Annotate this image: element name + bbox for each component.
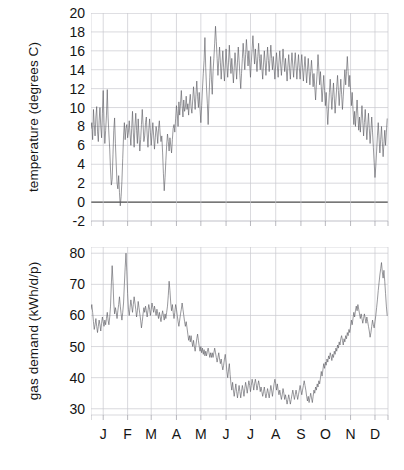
data-series-line — [91, 253, 387, 404]
y-tick-label: 50 — [55, 340, 85, 354]
x-tick-label-month: D — [365, 427, 385, 441]
x-tick-label-month: J — [216, 427, 236, 441]
y-tick-label: 14 — [55, 63, 85, 77]
y-tick-label: 30 — [55, 402, 85, 416]
x-tick-label-month: M — [141, 427, 161, 441]
x-tick-label-month: J — [240, 427, 260, 441]
x-tick-label-month: N — [341, 427, 361, 441]
y-tick-label: 2 — [55, 176, 85, 190]
y-axis-label-temperature: temperature (degrees C) — [25, 13, 43, 221]
x-tick-label-month: O — [315, 427, 335, 441]
y-tick-label: 18 — [55, 25, 85, 39]
y-tick-label: -2 — [55, 214, 85, 228]
data-series-line — [91, 26, 387, 206]
y-tick-label: 70 — [55, 277, 85, 291]
x-tick-label-month: J — [93, 427, 113, 441]
y-tick-label: 60 — [55, 308, 85, 322]
x-tick-label-month: M — [191, 427, 211, 441]
x-tick-label-month: A — [266, 427, 286, 441]
x-tick-label-month: F — [118, 427, 138, 441]
figure-container: temperature (degrees C) 2018161412108642… — [0, 0, 404, 470]
y-tick-label: 6 — [55, 138, 85, 152]
y-tick-label: 40 — [55, 371, 85, 385]
y-tick-label: 16 — [55, 44, 85, 58]
y-tick-label: 12 — [55, 82, 85, 96]
plot-area-temperature — [91, 13, 390, 235]
x-tick-label-month: A — [166, 427, 186, 441]
plot-area-gas-demand — [91, 247, 390, 429]
y-tick-label: 20 — [55, 6, 85, 20]
x-tick-label-month: S — [291, 427, 311, 441]
y-tick-label: 8 — [55, 119, 85, 133]
y-tick-label: 10 — [55, 101, 85, 115]
y-tick-label: 80 — [55, 246, 85, 260]
y-axis-label-gas-demand: gas demand (kWh/d/p) — [25, 247, 43, 415]
y-tick-label: 0 — [55, 195, 85, 209]
y-tick-label: 4 — [55, 157, 85, 171]
